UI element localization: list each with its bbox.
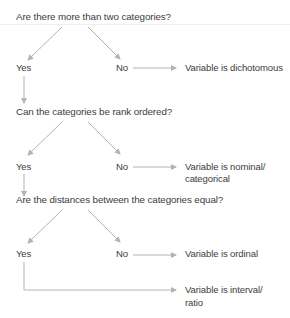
result-ordinal: Variable is ordinal [185, 248, 258, 260]
no-label-2: No [116, 161, 128, 173]
arrow-yes-to-interval [24, 262, 176, 290]
flowchart-canvas: Are there more than two categories? Yes … [0, 0, 290, 318]
yes-label-3: Yes [16, 248, 31, 260]
question-2: Can the categories be rank ordered? [16, 106, 172, 118]
result-dichotomous: Variable is dichotomous [185, 62, 283, 74]
result-nominal-line2: categorical [185, 173, 230, 185]
result-interval-line1: Variable is interval/ [185, 284, 262, 296]
arrow-q3-to-no [88, 210, 120, 242]
arrow-q1-to-yes [28, 27, 62, 60]
question-1: Are there more than two categories? [16, 11, 171, 23]
arrow-q2-to-no [88, 122, 120, 154]
arrow-q1-to-no [88, 27, 120, 59]
result-nominal-line1: Variable is nominal/ [185, 161, 265, 173]
connector-arrows [0, 0, 290, 318]
arrow-q3-to-yes [28, 210, 62, 243]
result-interval-line2: ratio [185, 297, 203, 309]
arrow-q2-to-yes [28, 122, 62, 155]
no-label-3: No [116, 248, 128, 260]
question-3: Are the distances between the categories… [16, 194, 223, 206]
no-label-1: No [116, 62, 128, 74]
yes-label-2: Yes [16, 161, 31, 173]
yes-label-1: Yes [16, 62, 31, 74]
